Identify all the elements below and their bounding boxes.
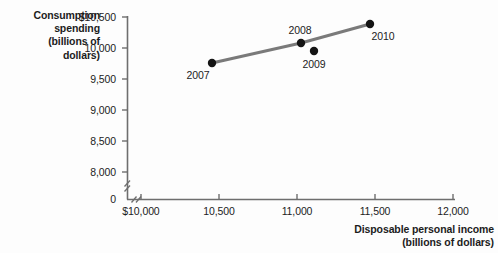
x-tick-label-10000: $10,000 (106, 205, 176, 217)
y-tick-label-0: 0 (62, 193, 116, 205)
y-axis-ticks (122, 17, 128, 172)
x-axis-title: Disposable personal income (billions of … (318, 223, 494, 249)
data-label-2008: 2008 (280, 24, 320, 36)
data-label-2010: 2010 (363, 30, 403, 42)
x-axis-ticks (141, 194, 453, 200)
x-tick-label-12000: 12,000 (418, 205, 488, 217)
chart-figure: Consumption spending (billions of dollar… (0, 0, 498, 253)
x-tick-label-10500: 10,500 (184, 205, 254, 217)
x-tick-label-11000: 11,000 (262, 205, 332, 217)
x-axis-title-line-2: (billions of dollars) (318, 236, 494, 249)
data-point-2008[interactable] (297, 39, 305, 47)
data-label-2009: 2009 (294, 58, 334, 70)
y-axis-title-line-2: spending (4, 22, 100, 35)
y-tick-label-10500: $10,500 (62, 11, 116, 23)
y-tick-label-10000: 10,000 (62, 42, 116, 54)
y-tick-label-8500: 8,500 (62, 135, 116, 147)
y-tick-label-9500: 9,500 (62, 73, 116, 85)
x-axis-title-line-1: Disposable personal income (318, 223, 494, 236)
data-point-2007[interactable] (208, 59, 216, 67)
data-point-2010[interactable] (366, 20, 374, 28)
y-tick-label-9000: 9,000 (62, 104, 116, 116)
x-tick-label-11500: 11,500 (340, 205, 410, 217)
y-tick-label-8000: 8,000 (62, 166, 116, 178)
data-point-2009[interactable] (310, 47, 318, 55)
data-label-2007: 2007 (178, 69, 218, 81)
